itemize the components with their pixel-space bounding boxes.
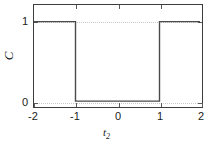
series-polyline-C xyxy=(34,22,200,101)
y-axis-label: C xyxy=(1,41,17,71)
x-axis-label-subscript: 2 xyxy=(106,132,110,141)
ytick-label-0: 0 xyxy=(6,96,28,109)
xtick-label--1: -1 xyxy=(62,110,88,123)
xtick-mark-2 xyxy=(202,103,203,107)
data-curve-C xyxy=(34,5,202,107)
x-axis-label: t2 xyxy=(0,126,213,141)
xtick-label-2: 2 xyxy=(188,110,213,123)
xtick-label-0: 0 xyxy=(105,110,131,123)
xtick-label--2: -2 xyxy=(20,110,46,123)
ytick-label-1: 1 xyxy=(6,15,28,28)
plot-area xyxy=(33,4,203,108)
xtick-label-1: 1 xyxy=(147,110,173,123)
chart-figure: 1 0 -2 -1 0 1 2 t2 C xyxy=(0,0,213,143)
